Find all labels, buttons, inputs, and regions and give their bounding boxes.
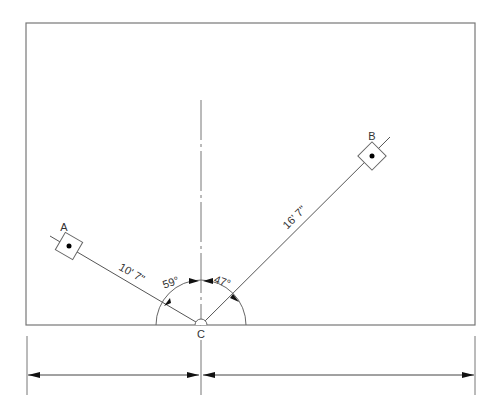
measurement-diagram: A B C 10' 7" 16' 7" 59° 47° [0,0,504,403]
angle-b-arrow-left [203,278,213,284]
node-a-dot [67,244,72,249]
dimension-cb: 16' 7" [280,203,308,231]
line-c-to-b [201,137,390,325]
angle-b-label: 47° [212,273,232,290]
angle-a-arrow-right [189,278,199,284]
node-c[interactable]: C [195,319,207,340]
node-c-marker [195,319,207,325]
node-a[interactable]: A [55,221,82,260]
angle-a-label: 59° [161,274,181,291]
boundary-frame [26,23,475,325]
dimension-ca: 10' 7" [117,260,147,284]
label-c: C [197,328,205,340]
label-b: B [368,130,375,142]
node-b-dot [370,154,375,159]
label-a: A [60,221,68,233]
